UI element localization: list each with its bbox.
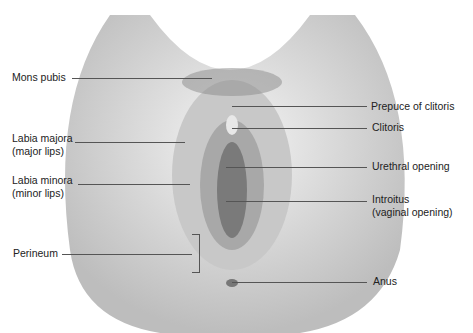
- label-urethral-opening: Urethral opening: [372, 160, 450, 173]
- leader-mons: [72, 78, 212, 79]
- label-clitoris: Clitoris: [372, 121, 404, 134]
- label-mons-pubis: Mons pubis: [12, 71, 66, 84]
- label-labia-minora: Labia minora(minor lips): [12, 174, 73, 200]
- leader-anus: [232, 282, 367, 283]
- label-perineum: Perineum: [13, 247, 58, 260]
- label-introitus: Introitus(vaginal opening): [372, 193, 453, 219]
- leader-introitus: [226, 201, 367, 202]
- label-anus: Anus: [373, 275, 397, 288]
- leader-labia-minora: [78, 184, 190, 185]
- label-prepuce: Prepuce of clitoris: [371, 100, 454, 113]
- leader-clitoris: [232, 128, 367, 129]
- label-labia-majora: Labia majora(major lips): [12, 132, 73, 158]
- leader-urethral: [226, 167, 367, 168]
- leader-prepuce: [232, 106, 367, 107]
- leader-labia-majora: [75, 142, 185, 143]
- leader-perineum: [62, 254, 192, 255]
- perineum-bracket: [192, 234, 200, 273]
